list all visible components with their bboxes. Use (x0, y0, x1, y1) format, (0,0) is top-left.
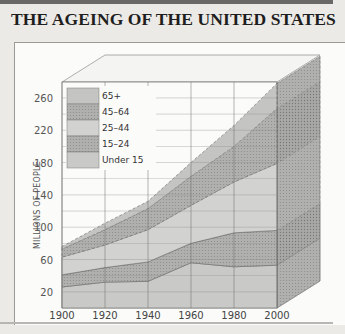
x-tick-label: 2000 (264, 310, 289, 321)
x-tick-label: 1960 (178, 310, 203, 321)
legend-label: 45–64 (102, 107, 130, 117)
y-tick-label: 220 (34, 125, 53, 136)
legend-label: 15–24 (102, 139, 130, 149)
x-tick-label: 1980 (221, 310, 246, 321)
legend-label: Under 15 (102, 155, 144, 165)
x-axis-ticks: 190019201940196019802000 (49, 310, 289, 321)
x-tick-label: 1900 (49, 310, 74, 321)
x-tick-label: 1920 (92, 310, 117, 321)
box-side-face (277, 56, 320, 308)
y-tick-label: 260 (34, 93, 53, 104)
y-axis-label: MILLIONS OF PEOPLE (33, 161, 42, 249)
x-tick-label: 1940 (135, 310, 160, 321)
y-tick-label: 60 (40, 255, 53, 266)
y-tick-label: 20 (40, 287, 53, 298)
legend-label: 25–44 (102, 123, 130, 133)
legend: 65+45–6425–4415–24Under 15 (66, 86, 156, 170)
legend-label: 65+ (102, 91, 121, 101)
